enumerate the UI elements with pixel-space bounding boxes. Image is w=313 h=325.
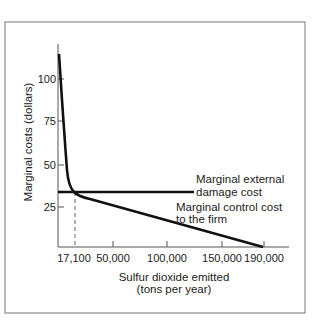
- x-tick-label: 50,000: [96, 252, 130, 264]
- x-axis-title: Sulfur dioxide emitted: [119, 271, 230, 283]
- x-tick-label: 150,000: [202, 252, 242, 264]
- label-control-cost-line1: Marginal control cost: [176, 201, 283, 213]
- label-external-damage-line2: damage cost: [196, 186, 263, 198]
- chart: 100 75 50 25 17,100 50,000 100,000 150,0…: [0, 0, 313, 325]
- x-tick-label: 100,000: [147, 252, 187, 264]
- y-tick-label: 25: [44, 201, 56, 213]
- x-axis-subtitle: (tons per year): [137, 283, 212, 295]
- label-control-cost-line2: to the firm: [176, 213, 227, 225]
- y-tick-label: 50: [44, 159, 56, 171]
- x-tick-label: 17,100: [57, 252, 91, 264]
- series-marginal-control-cost: [59, 54, 263, 247]
- x-tick-label: 190,000: [244, 252, 284, 264]
- label-external-damage-line1: Marginal external: [196, 173, 284, 185]
- y-axis-title: Marginal costs (dollars): [22, 82, 34, 201]
- y-tick-label: 100: [38, 73, 56, 85]
- y-tick-label: 75: [44, 115, 56, 127]
